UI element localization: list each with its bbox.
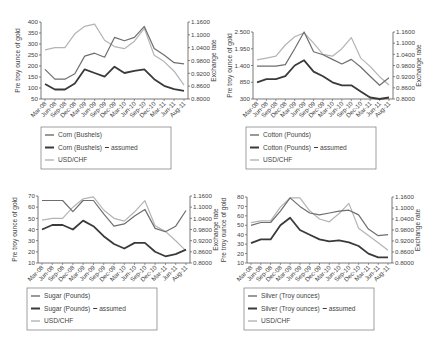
legend-label: USD/CHF xyxy=(263,156,292,163)
y2-tick-label: 0.8000 xyxy=(191,95,210,102)
legend-label: Cotton (Pounds) xyxy=(263,131,311,139)
legend-label: Sugar (Pounds) xyxy=(44,305,90,313)
series-line xyxy=(251,198,388,236)
commodity-charts-canvas: 501001502002503003504000.80000.86000.920… xyxy=(0,0,441,341)
y2-tick-label: 1.1000 xyxy=(396,39,415,46)
legend-label: Corn (Bushels) xyxy=(58,131,102,139)
y-axis-title: Pre troy ounce of gold xyxy=(220,197,228,262)
y-tick-label: 400 xyxy=(28,18,39,25)
legend-assumed-label: assumed xyxy=(320,144,347,151)
y2-tick-label: 0.8000 xyxy=(396,95,415,102)
y-tick-label: 30 xyxy=(237,240,244,247)
y2-tick-label: 0.9200 xyxy=(193,237,212,244)
legend-assumed-label: assumed xyxy=(99,305,126,312)
series-line xyxy=(45,26,184,79)
legend: Silver (Troy ounces)Silver (Troy ounces)… xyxy=(244,288,374,330)
y2-tick-label: 0.8600 xyxy=(193,248,212,255)
y2-tick-label: 0.9800 xyxy=(191,57,210,64)
y-tick-label: 2.500 xyxy=(235,28,251,35)
y2-tick-label: 1.1600 xyxy=(396,28,415,35)
y-tick-label: 40 xyxy=(237,231,244,238)
y-tick-label: 300 xyxy=(28,40,39,47)
y2-tick-label: 0.8600 xyxy=(191,82,210,89)
y-tick-label: 350 xyxy=(28,29,39,36)
y2-tick-label: 0.8600 xyxy=(395,248,414,255)
series-line xyxy=(42,201,186,232)
y-tick-label: 10 xyxy=(28,259,35,266)
y-tick-label: 1.400 xyxy=(235,62,251,69)
y2-tick-label: 1.1600 xyxy=(191,18,210,25)
y2-tick-label: 1.0400 xyxy=(193,215,212,222)
y2-tick-label: 0.8000 xyxy=(193,259,212,266)
series-line xyxy=(257,32,389,85)
legend-label: Corn (Bushels) xyxy=(58,144,102,152)
y2-tick-label: 0.9200 xyxy=(191,70,210,77)
legend-label: Silver (Troy ounces) xyxy=(261,305,320,313)
legend-label: USD/CHF xyxy=(261,317,290,324)
sugar-chart: 102030405060700.80000.86000.92000.98001.… xyxy=(11,192,220,330)
y2-tick-label: 0.9200 xyxy=(395,237,414,244)
cotton-chart: 3008501.4001.9502.5000.80000.86000.92000… xyxy=(226,28,423,169)
y2-tick-label: 0.9800 xyxy=(193,226,212,233)
y-axis-title: Pre troy ounce of gold xyxy=(11,197,19,262)
y2-tick-label: 0.9200 xyxy=(396,73,415,80)
y-tick-label: 10 xyxy=(237,259,244,266)
y2-tick-label: 1.1600 xyxy=(193,192,212,199)
legend-label: Sugar (Pounds) xyxy=(44,292,90,300)
y2-tick-label: 0.9800 xyxy=(395,226,414,233)
legend-assumed-label: assumed xyxy=(111,144,138,151)
corn-chart: 501001502002503003504000.80000.86000.920… xyxy=(14,18,218,169)
legend-label: Cotton (Pounds) xyxy=(263,144,311,152)
y-tick-label: 1.950 xyxy=(235,45,251,52)
y-tick-label: 150 xyxy=(28,73,39,80)
legend-assumed-label: assumed xyxy=(329,305,356,312)
y2-tick-label: 1.1000 xyxy=(193,203,212,210)
y-axis-title: Pre troy ounce of gold xyxy=(14,28,22,93)
y2-tick-label: 1.0400 xyxy=(191,44,210,51)
y-tick-label: 70 xyxy=(28,192,35,199)
y-tick-label: 300 xyxy=(240,95,251,102)
y-tick-label: 50 xyxy=(28,215,35,222)
y-tick-label: 80 xyxy=(237,193,244,200)
y-axis-title: Pre troy ounce of gold xyxy=(226,33,234,98)
legend: Sugar (Pounds)Sugar (Pounds)assumedUSD/C… xyxy=(27,288,157,330)
series-line xyxy=(42,197,186,251)
y2-tick-label: 1.0400 xyxy=(395,215,414,222)
y2-axis-title: Exchange rate xyxy=(414,208,422,251)
y-tick-label: 20 xyxy=(28,248,35,255)
y-tick-label: 70 xyxy=(237,203,244,210)
y-tick-label: 20 xyxy=(237,250,244,257)
y-tick-label: 60 xyxy=(28,203,35,210)
y-tick-label: 200 xyxy=(28,62,39,69)
y-tick-label: 50 xyxy=(237,221,244,228)
series-line xyxy=(251,218,388,258)
y2-axis-title: Exchange rate xyxy=(415,44,423,87)
y-tick-label: 100 xyxy=(28,84,39,91)
y-tick-label: 30 xyxy=(28,237,35,244)
y-tick-label: 250 xyxy=(28,51,39,58)
y-tick-label: 850 xyxy=(240,78,251,85)
y-tick-label: 60 xyxy=(237,212,244,219)
silver-chart: 10203040506070800.80000.86000.92000.9800… xyxy=(220,193,422,330)
y2-tick-label: 1.0400 xyxy=(396,51,415,58)
legend: Cotton (Pounds)Cotton (Pounds)assumedUSD… xyxy=(246,127,376,169)
y2-axis-title: Exchange rate xyxy=(210,39,218,82)
y-tick-label: 40 xyxy=(28,226,35,233)
y2-tick-label: 1.1600 xyxy=(395,193,414,200)
legend-label: USD/CHF xyxy=(58,156,87,163)
legend-label: Silver (Troy ounces) xyxy=(261,292,320,300)
series-line xyxy=(251,198,388,250)
y-tick-label: 50 xyxy=(31,95,38,102)
y2-tick-label: 0.8600 xyxy=(396,84,415,91)
legend: Corn (Bushels)Corn (Bushels)assumedUSD/C… xyxy=(41,127,171,169)
y2-tick-label: 1.1000 xyxy=(395,204,414,211)
y2-axis-title: Exchange rate xyxy=(212,208,220,251)
y2-tick-label: 1.1000 xyxy=(191,31,210,38)
legend-label: USD/CHF xyxy=(44,317,73,324)
y2-tick-label: 0.9800 xyxy=(396,62,415,69)
y2-tick-label: 0.8000 xyxy=(395,259,414,266)
